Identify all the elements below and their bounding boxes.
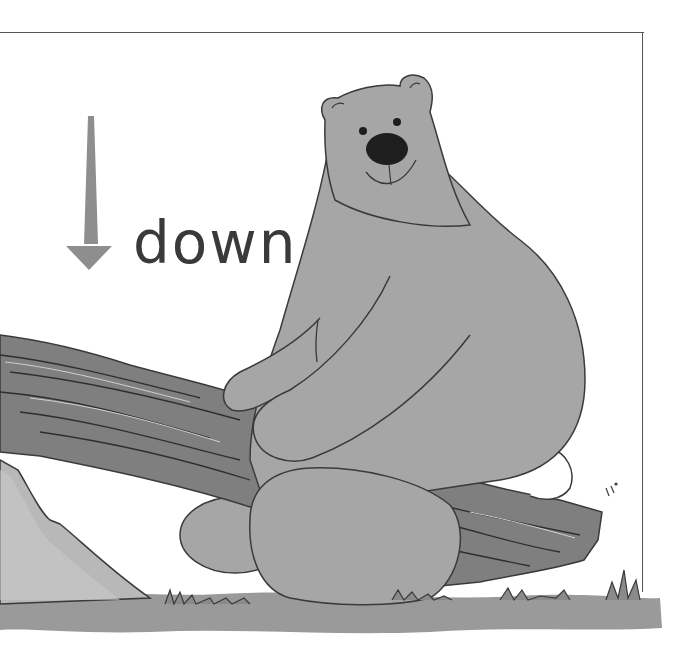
direction-label: down [133, 214, 298, 272]
illustration-page: down [0, 0, 679, 658]
down-arrow-icon [66, 116, 112, 270]
bear-nose [366, 133, 408, 165]
bear-eye-left [359, 127, 367, 135]
bear-eye-right [393, 118, 401, 126]
bear-scene [0, 0, 679, 658]
